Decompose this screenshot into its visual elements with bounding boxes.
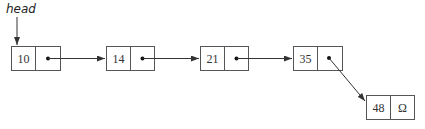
head-label: head: [6, 2, 36, 16]
node-value: 21: [207, 52, 219, 66]
list-node: 48 Ω: [367, 96, 415, 120]
null-omega-icon: Ω: [398, 101, 407, 115]
node-value: 48: [373, 101, 385, 115]
list-node: 35: [294, 47, 343, 71]
linked-list-diagram: head 10 14 21 35 48 Ω: [0, 0, 425, 129]
node-value: 14: [113, 52, 125, 66]
node-value: 10: [18, 52, 30, 66]
node-value: 35: [300, 52, 312, 66]
next-pointer-arrow: [329, 58, 365, 101]
